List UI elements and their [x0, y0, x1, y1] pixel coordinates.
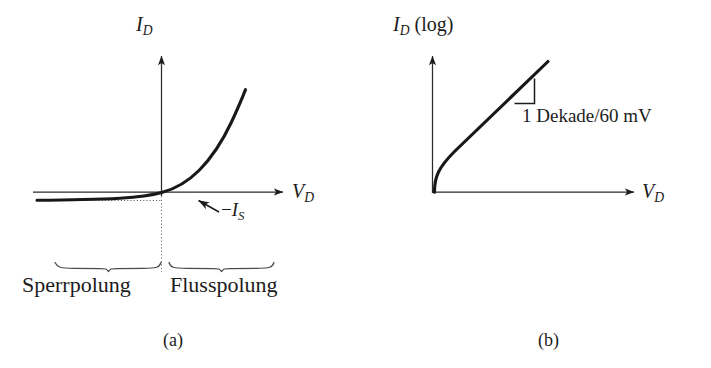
annotation-slope-label: 1 Dekade/60 mV — [522, 106, 652, 125]
annotation-minus-sign: − — [221, 199, 232, 220]
panel-a-axes — [33, 56, 283, 196]
figure-drawing-layer — [0, 0, 711, 368]
axis-label-id-right-symbol: I — [393, 13, 400, 35]
axis-label-id-right: ID (log) — [393, 14, 453, 34]
axis-label-id-left-symbol: I — [136, 13, 143, 35]
region-label-sperrpolung: Sperrpolung — [22, 274, 131, 296]
axis-label-vd-right-symbol: V — [642, 180, 654, 202]
minus-is-pointer-arrow — [199, 201, 220, 213]
brace-flusspolung-icon — [169, 263, 274, 272]
brace-sperrpolung-icon — [55, 263, 161, 272]
diode-iv-curve-linear — [37, 90, 246, 201]
axis-label-log-suffix: (log) — [415, 13, 454, 35]
diode-iv-curve-log — [434, 62, 548, 193]
annotation-is-subscript: S — [238, 208, 244, 223]
caption-b: (b) — [538, 331, 559, 349]
annotation-minus-is: −IS — [221, 200, 245, 219]
axis-label-vd-left: VD — [292, 181, 314, 201]
caption-a: (a) — [163, 331, 183, 349]
axis-label-vd-right-subscript: D — [654, 190, 664, 205]
diode-characteristics-figure: ID VD −IS Sperrpolung Flusspolung (a) ID… — [0, 0, 711, 368]
axis-label-id-right-subscript: D — [400, 23, 410, 38]
axis-label-id-left: ID — [136, 14, 153, 34]
axis-label-vd-right: VD — [642, 181, 664, 201]
region-label-flusspolung: Flusspolung — [170, 274, 278, 296]
axis-label-vd-left-symbol: V — [292, 180, 304, 202]
axis-label-vd-left-subscript: D — [304, 190, 314, 205]
axis-label-id-left-subscript: D — [143, 23, 153, 38]
